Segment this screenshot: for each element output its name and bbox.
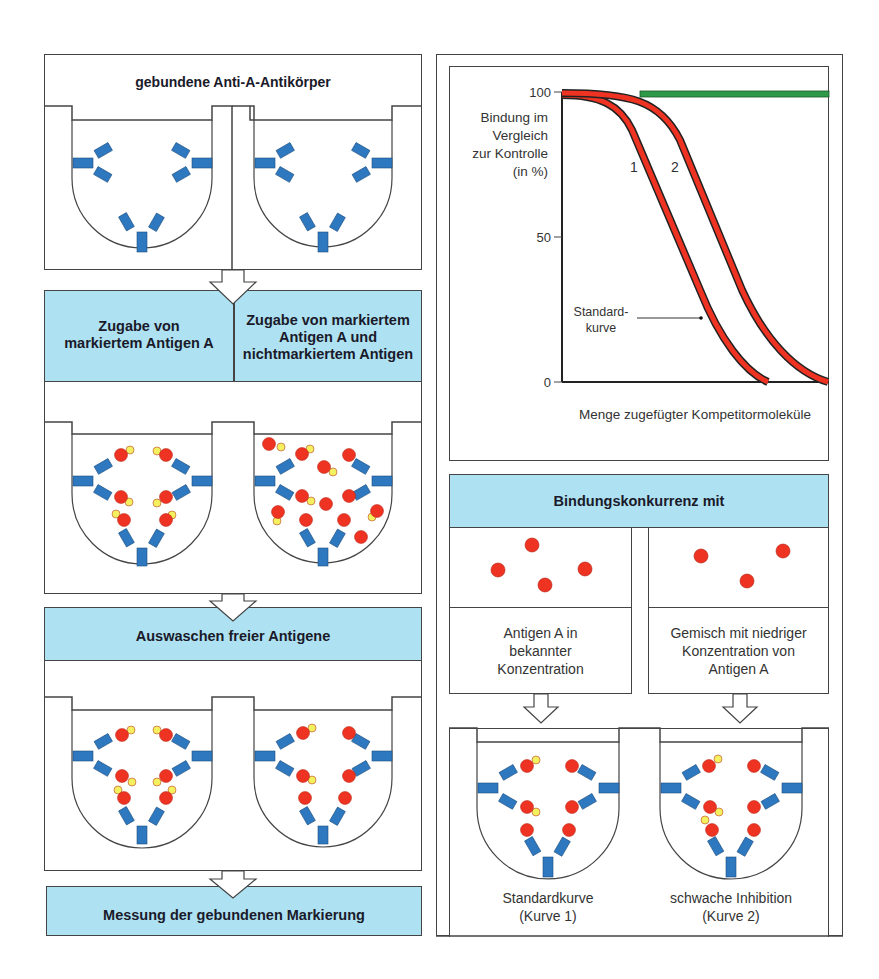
- result-left-label: Standardkurve (Kurve 1): [498, 887, 598, 927]
- result-right-label: schwache Inhibition (Kurve 2): [660, 887, 802, 927]
- result-wells: [0, 0, 879, 979]
